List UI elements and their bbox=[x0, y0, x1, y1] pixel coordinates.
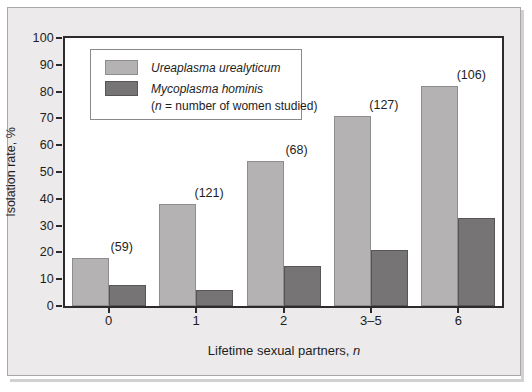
chart-legend: Ureaplasma urealyticum Mycoplasma homini… bbox=[90, 49, 302, 120]
y-axis-tick-mark bbox=[56, 278, 62, 280]
bar-mycoplasma-0 bbox=[109, 285, 146, 306]
y-axis-tick-label: 30 bbox=[20, 219, 54, 233]
panel-shadow-bottom bbox=[10, 379, 524, 382]
y-axis-tick-mark bbox=[56, 117, 62, 119]
legend-note-suffix: = number of women studied) bbox=[162, 99, 318, 113]
bar-annotation-1: (121) bbox=[195, 186, 224, 200]
bar-annotation-0: (59) bbox=[111, 240, 133, 254]
bar-annotation-4: (106) bbox=[457, 68, 486, 82]
y-axis-tick-label: 90 bbox=[20, 58, 54, 72]
y-axis-tick-label: 20 bbox=[20, 245, 54, 259]
x-axis-title-italic: n bbox=[353, 343, 360, 358]
y-axis-tick-label: 10 bbox=[20, 272, 54, 286]
x-axis-tick-label: 0 bbox=[105, 313, 112, 328]
bar-mycoplasma-2 bbox=[284, 266, 321, 306]
legend-item-ureaplasma: Ureaplasma urealyticum bbox=[105, 60, 280, 75]
y-axis-tick-mark bbox=[56, 198, 62, 200]
legend-note: (n = number of women studied) bbox=[151, 99, 317, 113]
legend-swatch-dark-icon bbox=[105, 81, 138, 96]
bar-mycoplasma-1 bbox=[196, 290, 233, 306]
y-axis-tick-label: 70 bbox=[20, 111, 54, 125]
y-axis-tick-mark bbox=[56, 225, 62, 227]
y-axis-tick-mark bbox=[56, 171, 62, 173]
bar-ureaplasma-4 bbox=[421, 86, 458, 306]
bar-ureaplasma-2 bbox=[247, 161, 284, 306]
y-axis-tick-mark bbox=[56, 144, 62, 146]
bar-mycoplasma-3 bbox=[371, 250, 408, 306]
bar-ureaplasma-0 bbox=[72, 258, 109, 306]
y-axis-tick-label: 60 bbox=[20, 138, 54, 152]
chart-figure: Isolation rate, % 0102030405060708090100… bbox=[0, 0, 532, 392]
y-axis-tick-mark bbox=[56, 251, 62, 253]
plot-area: Ureaplasma urealyticum Mycoplasma homini… bbox=[63, 36, 504, 308]
y-axis-tick-label: 80 bbox=[20, 85, 54, 99]
bar-ureaplasma-1 bbox=[159, 204, 196, 306]
x-axis-title-main: Lifetime sexual partners, bbox=[208, 343, 353, 358]
bar-ureaplasma-3 bbox=[334, 116, 371, 306]
x-axis-title: Lifetime sexual partners, n bbox=[208, 343, 360, 358]
legend-note-italic: n bbox=[155, 99, 162, 113]
y-axis-tick-mark bbox=[56, 305, 62, 307]
y-axis-tick-mark bbox=[56, 91, 62, 93]
y-axis-title: Isolation rate, % bbox=[4, 127, 18, 217]
x-axis-tick-label: 6 bbox=[455, 313, 462, 328]
legend-label-ureaplasma: Ureaplasma urealyticum bbox=[151, 61, 280, 75]
y-axis-tick-label: 50 bbox=[20, 165, 54, 179]
bar-annotation-2: (68) bbox=[285, 143, 307, 157]
panel-shadow-right bbox=[521, 10, 524, 382]
x-axis-tick-label: 3–5 bbox=[360, 313, 382, 328]
y-axis-tick-label: 0 bbox=[20, 299, 54, 313]
bar-mycoplasma-4 bbox=[458, 218, 495, 306]
bar-annotation-3: (127) bbox=[369, 98, 398, 112]
x-axis-tick-label: 1 bbox=[192, 313, 199, 328]
y-axis-tick-label: 100 bbox=[20, 31, 54, 45]
y-axis-tick-label: 40 bbox=[20, 192, 54, 206]
x-axis-tick-label: 2 bbox=[280, 313, 287, 328]
plot-inner: Ureaplasma urealyticum Mycoplasma homini… bbox=[65, 38, 502, 306]
legend-label-mycoplasma: Mycoplasma hominis bbox=[151, 82, 263, 96]
legend-swatch-light-icon bbox=[105, 60, 138, 75]
legend-item-mycoplasma: Mycoplasma hominis bbox=[105, 81, 263, 96]
y-axis-tick-mark bbox=[56, 64, 62, 66]
y-axis-tick-mark bbox=[56, 37, 62, 39]
